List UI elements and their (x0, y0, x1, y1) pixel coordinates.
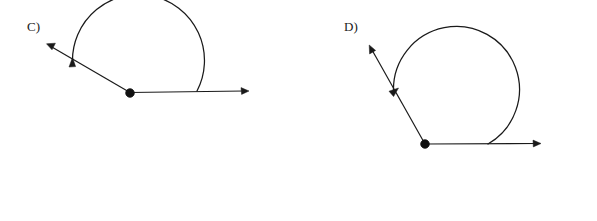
figure-c-horizontal-ray-arrowhead (241, 88, 249, 95)
angle-arc-c (72, 0, 204, 91)
angle-diagrams-canvas (0, 0, 597, 221)
figure-c-horizontal-ray (130, 91, 244, 93)
angle-arc-d (393, 26, 519, 144)
figure-d-horizontal-ray-arrowhead (533, 140, 541, 147)
figure-c-upper-left-ray (51, 47, 130, 93)
figure-c-vertex-point (126, 89, 135, 98)
diagram-page: C) D) (0, 0, 597, 221)
figure-c-group (47, 0, 250, 97)
figure-d-group (369, 26, 541, 148)
figure-d-horizontal-ray (425, 144, 536, 145)
figure-d-upper-left-ray-arrowhead (369, 45, 375, 54)
figure-d-vertex-point (421, 140, 430, 149)
